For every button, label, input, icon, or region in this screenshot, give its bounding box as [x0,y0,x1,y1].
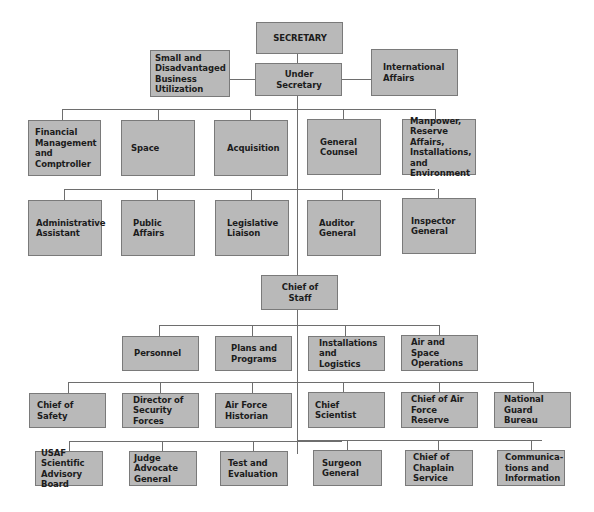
connector-drop [158,109,159,120]
box-air-force-historian: Air Force Historian [215,393,292,428]
box-test-and-evaluation: Test and Evaluation [220,451,288,486]
box-label: Chief Scientist [315,400,378,421]
box-label: Surgeon General [322,458,361,479]
box-label: Director of Security Forces [133,395,192,427]
org-chart: SECRETARY Under Secretary Small and Disa… [0,0,594,512]
box-label: Communica- tions and Information [505,452,563,484]
connector-drop [252,382,253,393]
connector-row1-bus [62,109,435,110]
box-label: Legislative Liaison [227,218,278,239]
connector-drop [159,325,160,336]
box-administrative-assistant: Administrative Assistant [28,200,102,256]
box-chief-scientist: Chief Scientist [308,392,385,428]
box-chief-of-staff: Chief of Staff [261,275,338,310]
box-chief-chaplain-service: Chief of Chaplain Service [405,450,473,486]
box-director-security-forces: Director of Security Forces [122,393,199,428]
box-national-guard-bureau: National Guard Bureau [494,392,571,428]
connector-row2-bus [64,189,435,190]
box-label: Public Affairs [133,218,164,239]
connector-drop [251,189,252,200]
box-label: Small and Disadvantaged Business Utiliza… [155,53,226,95]
connector-under-secretary-right [341,79,371,80]
connector-drop [250,109,251,120]
box-chief-air-force-reserve: Chief of Air Force Reserve [401,392,478,428]
box-label: SECRETARY [273,33,327,44]
box-installations-and-logistics: Installations and Logistics [308,336,385,371]
connector-staff2-bus [69,441,342,442]
box-public-affairs: Public Affairs [121,200,195,256]
box-surgeon-general: Surgeon General [313,450,382,486]
connector-under-secretary-left [229,79,257,80]
box-small-business: Small and Disadvantaged Business Utiliza… [150,50,230,97]
box-space: Space [121,120,195,176]
box-label: Inspector General [411,216,455,237]
connector-staff2-bus-right [297,440,542,441]
box-label: Administrative Assistant [36,218,105,239]
box-label: Personnel [134,348,181,359]
box-label: Under Secretary [263,69,335,90]
connector-drop [160,382,161,393]
box-label: National Guard Bureau [504,394,564,426]
box-secretary: SECRETARY [256,22,343,54]
box-label: Acquisition [227,143,279,154]
box-label: Chief of Staff [269,282,331,303]
connector-drop [64,189,65,200]
box-label: Installations and Logistics [319,338,378,370]
box-general-counsel: General Counsel [307,119,381,175]
box-label: Auditor General [319,218,356,239]
box-label: International Affairs [383,62,444,83]
box-label: Manpower, Reserve Affairs, Installations… [410,116,471,179]
box-label: Chief of Chaplain Service [413,452,454,484]
box-label: Financial Management and Comptroller [35,127,97,169]
connector-deputy-bus [159,325,439,326]
box-under-secretary: Under Secretary [255,63,342,96]
box-label: Judge Advocate General [134,453,190,485]
connector-drop [342,189,343,200]
connector-drop [252,325,253,336]
box-communications-and-information: Communica- tions and Information [497,450,565,486]
connector-staff1-bus [68,382,534,383]
connector-drop [157,189,158,200]
box-label: USAF Scientific Advisory Board [41,448,96,490]
box-auditor-general: Auditor General [307,200,381,256]
box-label: Chief of Safety [37,400,73,421]
box-acquisition: Acquisition [214,120,288,176]
connector-drop [253,441,254,451]
box-label: Space [131,143,159,154]
box-inspector-general: Inspector General [402,198,476,254]
box-label: Air Force Historian [225,400,268,421]
box-label: Test and Evaluation [228,458,278,479]
box-air-and-space-operations: Air and Space Operations [401,335,478,371]
box-label: General Counsel [320,137,357,158]
connector-drop [62,109,63,120]
box-judge-advocate-general: Judge Advocate General [129,451,197,486]
box-label: Air and Space Operations [411,337,471,369]
box-legislative-liaison: Legislative Liaison [215,200,289,256]
box-international-affairs: International Affairs [371,49,458,96]
connector-drop [345,325,346,336]
box-financial-management: Financial Management and Comptroller [28,120,101,176]
box-chief-of-safety: Chief of Safety [29,393,106,428]
box-manpower: Manpower, Reserve Affairs, Installations… [402,119,476,175]
box-usaf-scientific-advisory-board: USAF Scientific Advisory Board [35,451,103,486]
box-personnel: Personnel [122,336,199,371]
connector-drop [162,441,163,451]
connector-spine [297,52,298,454]
box-plans-and-programs: Plans and Programs [215,336,292,371]
box-label: Plans and Programs [231,343,277,364]
box-label: Chief of Air Force Reserve [411,394,471,426]
connector-drop [68,382,69,393]
